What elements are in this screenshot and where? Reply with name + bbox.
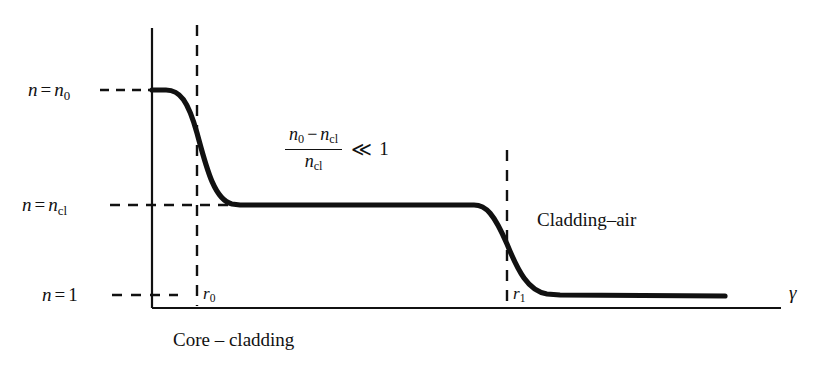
formula-right-hand-side: 1: [379, 138, 389, 160]
y-level-label-n0: n=n0: [28, 80, 70, 103]
x-marker-label-r1: r1: [513, 285, 525, 305]
caption-core-cladding: Core – cladding: [173, 330, 294, 349]
index-profile-curve: [152, 90, 725, 296]
plot-canvas: [0, 0, 821, 375]
caption-cladding-air: Cladding–air: [537, 210, 636, 229]
much-less-than-symbol: ≪: [342, 137, 379, 161]
fraction-numerator: n0−ncl: [285, 125, 342, 149]
inequality-formula: n0−ncl ncl ≪ 1: [285, 125, 389, 174]
y-level-label-ncl: n=ncl: [22, 195, 67, 218]
x-axis-name-label: γ: [789, 283, 797, 302]
fraction: n0−ncl ncl: [285, 125, 342, 174]
y-level-label-n1: n=1: [42, 285, 78, 304]
refractive-index-profile-figure: n=n0 n=ncl n=1 r0 r1 Core – cladding Cla…: [0, 0, 821, 375]
fraction-denominator: ncl: [301, 150, 327, 174]
x-marker-label-r0: r0: [203, 285, 215, 305]
